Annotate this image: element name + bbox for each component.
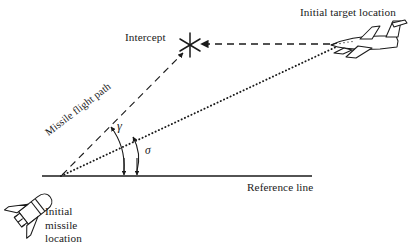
sigma-angle-arc: [133, 137, 139, 171]
label-initial-missile-location: Initial missile location: [45, 205, 82, 246]
label-intercept: Intercept: [125, 31, 166, 45]
label-initial-missile-location-line1: Initial: [45, 205, 82, 219]
label-sigma-angle: σ: [145, 143, 151, 157]
missile-intercept-diagram: Initial target location Intercept Refere…: [0, 0, 410, 251]
jet-aircraft-icon: [331, 20, 407, 58]
line-of-sight-dotted: [61, 47, 336, 176]
label-initial-target-location: Initial target location: [300, 6, 396, 20]
label-initial-missile-location-line3: location: [45, 232, 82, 246]
label-gamma-angle: γ: [117, 119, 122, 134]
label-reference-line: Reference line: [247, 181, 313, 195]
label-initial-missile-location-line2: missile: [45, 219, 82, 233]
